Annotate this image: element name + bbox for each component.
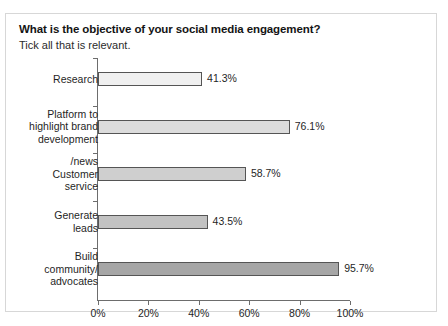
category-label: Generate leads <box>0 209 98 234</box>
x-axis-tick <box>300 301 301 305</box>
bar <box>98 72 202 86</box>
x-axis-tick-label: 100% <box>330 307 370 319</box>
x-axis-tick <box>350 301 351 305</box>
category-label: /news Customer service <box>0 155 98 193</box>
x-axis-tick-label: 40% <box>179 307 219 319</box>
y-axis-tick <box>93 201 97 202</box>
x-axis-tick <box>98 301 99 305</box>
x-axis-tick <box>148 301 149 305</box>
x-axis-line <box>97 300 350 301</box>
bar-value-label: 43.5% <box>213 215 243 227</box>
bar-value-label: 95.7% <box>344 262 374 274</box>
y-axis-tick <box>93 153 97 154</box>
bar-value-label: 76.1% <box>295 120 325 132</box>
y-axis-tick <box>93 248 97 249</box>
bar-value-label: 41.3% <box>207 72 237 84</box>
bar-value-label: 58.7% <box>251 167 281 179</box>
category-label: Platform to highlight brand development <box>0 108 98 146</box>
x-axis-tick <box>249 301 250 305</box>
x-axis-tick <box>199 301 200 305</box>
y-axis-tick <box>93 106 97 107</box>
bar <box>98 167 246 181</box>
chart-heading: What is the objective of your social med… <box>19 22 419 52</box>
bar <box>98 262 339 276</box>
x-axis-tick-label: 60% <box>229 307 269 319</box>
y-axis-tick <box>93 58 97 59</box>
bar <box>98 120 290 134</box>
chart-subtitle: Tick all that is relevant. <box>19 38 419 52</box>
x-axis-tick-label: 20% <box>128 307 168 319</box>
x-axis-tick-label: 80% <box>280 307 320 319</box>
chart-title: What is the objective of your social med… <box>19 22 419 37</box>
bar-chart-plot: 41.3%76.1%58.7%43.5%95.7% 0%20%40%60%80%… <box>6 56 438 311</box>
top-cutoff-text <box>0 0 448 10</box>
chart-panel: What is the objective of your social med… <box>5 13 437 312</box>
bar <box>98 215 208 229</box>
x-axis-tick-label: 0% <box>78 307 118 319</box>
category-label: Research <box>0 73 98 86</box>
category-label: Build community/ advocates <box>0 250 98 288</box>
